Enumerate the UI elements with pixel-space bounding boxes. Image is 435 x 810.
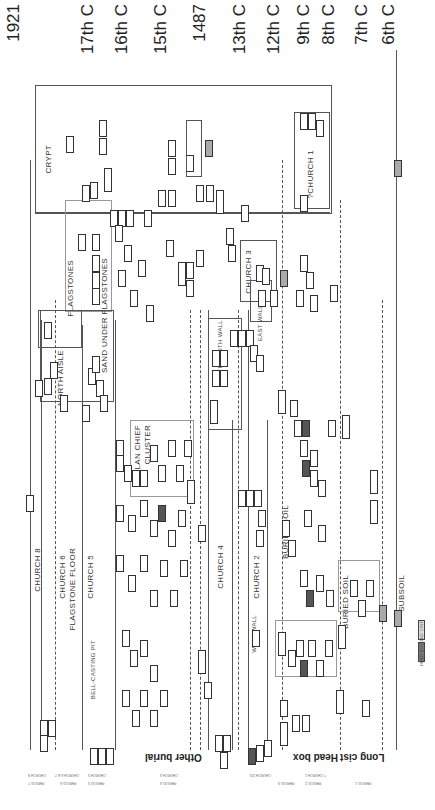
- context-unit: [128, 575, 136, 592]
- context-unit: [215, 735, 223, 752]
- context-unit: [212, 350, 220, 367]
- context-unit: [302, 715, 310, 732]
- context-unit: [318, 525, 326, 542]
- date-label-7th-c: 7th C: [352, 4, 372, 45]
- church6-label: CHURCH 6: [58, 555, 67, 599]
- context-unit: [168, 158, 176, 175]
- context-unit: [248, 748, 256, 765]
- flagstone-floor-label: FLAGSTONE FLOOR: [68, 548, 77, 631]
- period-label: PERIOD 5: [88, 781, 104, 785]
- period-label: PERIOD 3: [278, 781, 294, 785]
- context-unit: [82, 405, 90, 422]
- context-unit: [288, 650, 296, 667]
- context-unit: [308, 640, 316, 657]
- subsoil-line: [396, 50, 397, 750]
- context-unit: [204, 682, 212, 699]
- context-unit: [132, 470, 140, 487]
- context-unit: [150, 590, 158, 607]
- legend-long-cist: LONG CIST: [418, 620, 425, 640]
- context-unit: [166, 240, 174, 257]
- context-unit: [168, 190, 176, 207]
- context-unit: [220, 350, 228, 367]
- context-unit: [126, 210, 134, 227]
- context-unit: [226, 228, 234, 245]
- context-unit: [302, 420, 310, 437]
- context-unit: [256, 355, 264, 372]
- context-unit: [196, 185, 204, 202]
- context-unit: [220, 370, 228, 387]
- church4-right-line: [232, 420, 233, 750]
- period-label: PERIOD 6: [60, 781, 76, 785]
- context-unit: [270, 290, 278, 307]
- context-unit: [168, 530, 176, 547]
- context-unit: [326, 590, 334, 607]
- context-unit: [300, 195, 308, 212]
- context-unit: [262, 268, 270, 285]
- context-unit: [230, 330, 238, 347]
- context-unit: [316, 120, 324, 137]
- context-unit: [99, 138, 107, 155]
- context-unit: [92, 234, 100, 251]
- context-unit: [98, 748, 106, 765]
- context-unit: [180, 560, 188, 577]
- context-unit: [158, 465, 166, 482]
- context-unit: [280, 270, 288, 287]
- church8-line: [30, 160, 31, 750]
- context-unit: [150, 520, 158, 537]
- context-unit: [254, 490, 262, 507]
- context-unit: [205, 140, 213, 157]
- context-unit: [146, 305, 154, 322]
- context-unit: [300, 255, 308, 272]
- date-label-1487: 1487: [190, 4, 210, 42]
- period-label: CHURCH 2/3: [250, 773, 271, 777]
- context-unit: [316, 660, 324, 677]
- context-unit: [290, 400, 298, 417]
- legend-head-box: HEAD BOX: [418, 642, 425, 662]
- context-unit: [258, 510, 266, 527]
- context-unit: [350, 580, 358, 597]
- context-unit: [140, 555, 148, 572]
- context-unit: [60, 395, 68, 412]
- period-label: ? CHURCH 1: [305, 773, 326, 777]
- date-label-13th-c: 13th C: [230, 4, 250, 54]
- context-unit: [258, 290, 266, 307]
- context-unit: [92, 356, 100, 373]
- buried-soil-2-divider: [340, 200, 341, 750]
- church1-label: ?CHURCH 1: [306, 150, 315, 199]
- context-unit: [328, 420, 336, 437]
- context-unit: [48, 720, 56, 737]
- date-label-17th-c: 17th C: [78, 4, 98, 54]
- context-unit: [168, 440, 176, 457]
- context-unit: [140, 500, 148, 517]
- context-unit: [212, 370, 220, 387]
- context-unit: [342, 415, 350, 439]
- context-unit: [358, 600, 366, 617]
- context-unit: [206, 185, 214, 202]
- context-unit: [158, 190, 166, 207]
- context-unit: [300, 570, 308, 587]
- context-unit: [116, 455, 124, 472]
- context-unit: [178, 510, 186, 527]
- date-label-8th-c: 8th C: [319, 4, 339, 45]
- context-unit: [196, 250, 204, 267]
- context-unit: [198, 525, 206, 542]
- context-unit: [264, 740, 272, 757]
- context-unit: [241, 205, 249, 222]
- context-unit: [82, 185, 90, 202]
- context-unit: [308, 113, 316, 130]
- date-label-12th-c: 12th C: [264, 4, 284, 54]
- church8-label: CHURCH 8: [33, 548, 42, 592]
- context-unit: [26, 495, 34, 512]
- context-unit: [106, 748, 114, 765]
- context-unit: [140, 470, 148, 487]
- context-unit: [128, 515, 136, 532]
- context-unit: [220, 752, 228, 769]
- context-unit: [300, 660, 308, 677]
- date-label-16th-c: 16th C: [112, 4, 132, 54]
- context-unit: [330, 285, 338, 302]
- context-unit: [92, 272, 100, 289]
- context-unit: [130, 650, 138, 667]
- period-label: CHURCH 5: [88, 773, 106, 777]
- context-unit: [394, 610, 402, 627]
- context-unit: [302, 460, 310, 477]
